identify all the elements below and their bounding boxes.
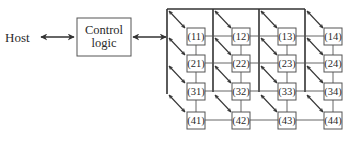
svg-text:(24): (24) [324, 58, 342, 70]
systolic-array-diagram: Host Control logic [0, 0, 355, 141]
cell-34: (34) [324, 83, 342, 100]
svg-text:(34): (34) [324, 86, 342, 98]
svg-text:(21): (21) [187, 58, 205, 70]
mesh-vertical-links [196, 36, 333, 120]
cell-24: (24) [324, 55, 342, 72]
svg-text:(33): (33) [278, 86, 296, 98]
cell-21: (21) [187, 55, 205, 72]
cell-14: (14) [324, 28, 342, 45]
bus-lines [167, 9, 305, 94]
svg-text:(22): (22) [232, 58, 250, 70]
cell-44: (44) [324, 112, 342, 129]
cell-32: (32) [232, 83, 250, 100]
cell-22: (22) [232, 55, 250, 72]
cell-13: (13) [278, 28, 296, 45]
svg-text:(14): (14) [324, 31, 342, 43]
svg-text:(42): (42) [232, 115, 250, 127]
control-logic-label-line2: logic [92, 36, 117, 50]
mesh-horizontal-links [196, 36, 333, 120]
svg-text:(23): (23) [278, 58, 296, 70]
cell-33: (33) [278, 83, 296, 100]
control-logic-label-line1: Control [85, 23, 124, 37]
cell-41: (41) [187, 112, 205, 129]
svg-text:(11): (11) [187, 31, 205, 43]
svg-text:(31): (31) [187, 86, 205, 98]
svg-text:(43): (43) [278, 115, 296, 127]
host-label: Host [5, 30, 30, 45]
svg-text:(12): (12) [232, 31, 250, 43]
cell-31: (31) [187, 83, 205, 100]
cell-23: (23) [278, 55, 296, 72]
svg-text:(13): (13) [278, 31, 296, 43]
cell-11: (11) [187, 28, 205, 45]
svg-text:(41): (41) [187, 115, 205, 127]
cell-42: (42) [232, 112, 250, 129]
cell-43: (43) [278, 112, 296, 129]
svg-text:(32): (32) [232, 86, 250, 98]
cell-12: (12) [232, 28, 250, 45]
svg-text:(44): (44) [324, 115, 342, 127]
